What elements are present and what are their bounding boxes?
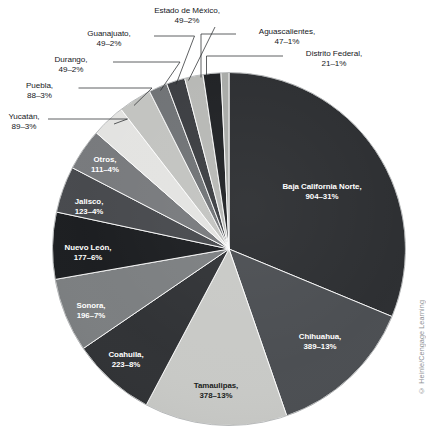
callout-label-distrito-federal-line2: 21–1% [275, 59, 393, 69]
callout-label-guanajuato-line2: 49–2% [63, 39, 155, 49]
callout-label-aguascalientes: Aguascalientes, 47–1% [228, 27, 346, 47]
slice-label-baja-california-norte-line2: 904–31% [252, 192, 392, 202]
callout-label-yucatan: Yucatán, 89–3% [0, 112, 48, 132]
slice-label-sonora: Sonora, 196–7% [49, 301, 133, 321]
slice-label-chihuahua-line1: Chihuahua, [272, 332, 368, 342]
callout-label-guanajuato: Guanajuato, 49–2% [63, 29, 155, 49]
slice-label-nuevo-leon: Nuevo León, 177–6% [34, 243, 142, 263]
slice-label-chihuahua-line2: 389–13% [272, 342, 368, 352]
leader-line-estado-de-mexico [189, 27, 216, 81]
slice-label-otros-line1: Otros, [63, 155, 147, 165]
callout-label-estado-de-mexico-line2: 49–2% [133, 16, 241, 26]
callout-label-distrito-federal: Distrito Federal, 21–1% [275, 49, 393, 69]
callout-label-puebla-line2: 88–3% [0, 91, 79, 101]
callout-label-guanajuato-line1: Guanajuato, [63, 29, 155, 39]
callout-label-durango-line2: 49–2% [28, 65, 114, 75]
slice-label-nuevo-leon-line1: Nuevo León, [34, 243, 142, 253]
slice-label-tamaulipas: Tamaulipas, 378–13% [168, 381, 264, 401]
callout-label-yucatan-line1: Yucatán, [0, 112, 48, 122]
copyright-credit: © Heinle/Cengage Learning [417, 300, 426, 395]
slice-label-baja-california-norte: Baja California Norte, 904–31% [252, 182, 392, 202]
slice-label-coahuila: Coahuila, 223–8% [81, 350, 171, 370]
slice-label-otros: Otros, 111–4% [63, 155, 147, 175]
callout-label-estado-de-mexico: Estado de México, 49–2% [133, 6, 241, 26]
callout-label-durango-line1: Durango, [28, 55, 114, 65]
slice-label-chihuahua: Chihuahua, 389–13% [272, 332, 368, 352]
pie-chart-figure: Estado de México, 49–2% Aguascalientes, … [0, 0, 427, 437]
slice-label-jalisco: Jalisco, 123–4% [47, 197, 131, 217]
slice-label-nuevo-leon-line2: 177–6% [34, 253, 142, 263]
slice-label-tamaulipas-line2: 378–13% [168, 391, 264, 401]
callout-label-distrito-federal-line1: Distrito Federal, [275, 49, 393, 59]
callout-label-aguascalientes-line2: 47–1% [228, 37, 346, 47]
callout-label-aguascalientes-line1: Aguascalientes, [228, 27, 346, 37]
slice-label-baja-california-norte-line1: Baja California Norte, [252, 182, 392, 192]
callout-label-puebla-line1: Puebla, [0, 81, 79, 91]
slice-label-coahuila-line2: 223–8% [81, 360, 171, 370]
slice-label-jalisco-line2: 123–4% [47, 207, 131, 217]
slice-label-tamaulipas-line1: Tamaulipas, [168, 381, 264, 391]
slice-label-coahuila-line1: Coahuila, [81, 350, 171, 360]
slice-label-sonora-line2: 196–7% [49, 311, 133, 321]
slice-label-sonora-line1: Sonora, [49, 301, 133, 311]
callout-label-puebla: Puebla, 88–3% [0, 81, 79, 101]
callout-label-estado-de-mexico-line1: Estado de México, [133, 6, 241, 16]
slice-label-jalisco-line1: Jalisco, [47, 197, 131, 207]
slice-label-otros-line2: 111–4% [63, 165, 147, 175]
callout-label-durango: Durango, 49–2% [28, 55, 114, 75]
callout-label-yucatan-line2: 89–3% [0, 122, 48, 132]
